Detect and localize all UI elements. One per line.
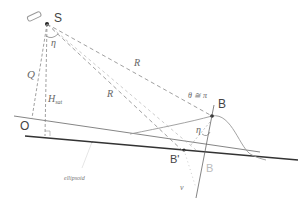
label-nu: ν	[180, 183, 184, 192]
label-h: Hsat	[47, 93, 63, 105]
label-r-upper: R	[133, 57, 140, 68]
label-s: S	[54, 11, 62, 25]
r-lower-line	[47, 24, 184, 152]
terrain-curve	[130, 116, 266, 160]
label-b-prime: B'	[170, 153, 179, 165]
label-q: Q	[27, 68, 35, 80]
r-upper-line	[47, 24, 212, 116]
label-r-lower: R	[106, 88, 113, 99]
label-o: O	[20, 119, 29, 133]
satellite-icon	[27, 11, 42, 21]
geometry-diagram: S η Q Hsat R R θ ≅ π B η O B' B ν ellips…	[0, 0, 299, 210]
label-b: B	[218, 97, 226, 111]
h-line	[45, 24, 47, 136]
label-b-ghost: B	[206, 162, 213, 174]
label-eta-top: η	[51, 37, 56, 48]
label-theta: θ ≅ π	[188, 91, 208, 100]
label-ellipsoid: ellipsoid	[64, 175, 86, 181]
ellipsoid-line	[25, 136, 298, 160]
label-eta-right: η	[196, 124, 201, 135]
